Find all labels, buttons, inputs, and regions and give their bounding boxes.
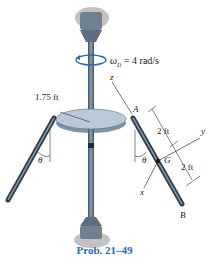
theta-left-label: θ (38, 155, 42, 165)
point-b-label: B (180, 210, 186, 220)
radius-label: 1.75 ft (35, 92, 59, 102)
omega-value: = 4 rad/s (124, 55, 159, 66)
omega-subscript: D (117, 62, 121, 68)
dimension-upper-label: 2 ft (157, 126, 169, 136)
angular-velocity-label: ωD = 4 rad/s (110, 55, 159, 68)
axis-x-label: x (140, 187, 144, 197)
point-a-label: A (133, 104, 139, 114)
point-g-label: G (164, 155, 171, 165)
axis-z-label: z (110, 72, 114, 82)
figure-caption: Prob. 21–49 (0, 244, 209, 256)
theta-right-label: θ (142, 155, 146, 165)
axis-y-label: y (201, 126, 205, 136)
dimension-lower-label: 2 ft (181, 162, 193, 172)
diagram-drawing (0, 0, 209, 261)
omega-symbol: ω (110, 55, 117, 66)
